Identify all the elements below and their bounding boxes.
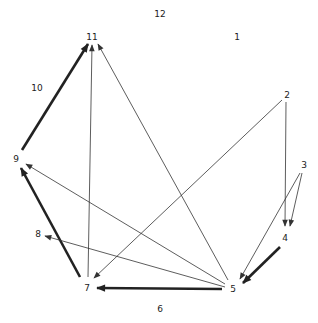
node-6: 6: [157, 305, 163, 314]
edge-5-to-11: [98, 44, 228, 280]
node-3: 3: [301, 161, 307, 170]
graph-canvas: [0, 0, 318, 323]
edge-4-to-5: [243, 247, 280, 283]
node-5: 5: [230, 285, 236, 294]
node-2: 2: [284, 91, 290, 100]
node-4: 4: [282, 234, 288, 243]
edges-group: [21, 44, 302, 289]
edge-9-to-11: [22, 44, 88, 150]
edge-5-to-7: [97, 288, 222, 289]
edge-2-to-4: [285, 102, 286, 226]
node-8: 8: [35, 230, 41, 239]
edge-7-to-9: [21, 168, 80, 277]
edge-2-to-7: [94, 100, 282, 278]
node-12: 12: [154, 10, 165, 19]
edge-7-to-11: [88, 45, 92, 277]
edge-3-to-4: [290, 173, 302, 226]
node-7: 7: [84, 284, 90, 293]
node-1: 1: [234, 33, 240, 42]
node-11: 11: [86, 33, 97, 42]
edge-3-to-5: [240, 173, 300, 279]
node-9: 9: [13, 155, 19, 164]
node-10: 10: [31, 84, 42, 93]
